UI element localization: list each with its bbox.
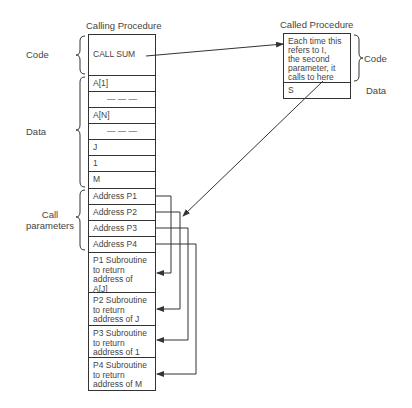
call-params-brace <box>76 190 85 250</box>
called-code-brace <box>354 35 363 81</box>
connector-lines <box>0 0 412 408</box>
data-brace <box>76 77 85 187</box>
code-brace <box>76 36 85 74</box>
